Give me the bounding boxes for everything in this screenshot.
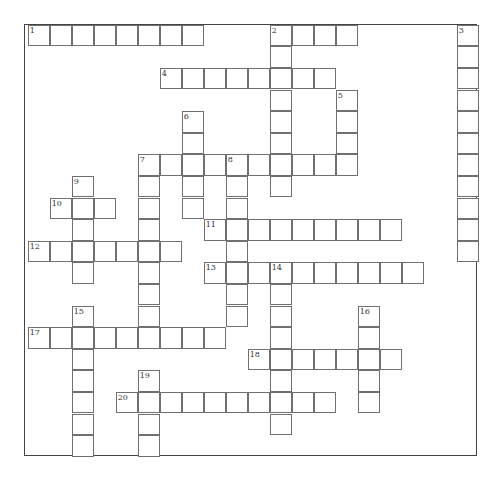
crossword-cell[interactable] [270,46,292,68]
crossword-cell[interactable] [226,392,248,414]
crossword-cell[interactable] [457,111,479,133]
crossword-cell[interactable] [204,327,226,349]
crossword-cell[interactable] [116,25,138,47]
crossword-cell[interactable] [270,349,292,371]
crossword-cell[interactable] [248,154,270,176]
crossword-cell[interactable] [270,392,292,414]
crossword-cell[interactable] [457,90,479,112]
crossword-cell[interactable] [72,198,94,220]
crossword-cell[interactable] [292,154,314,176]
crossword-cell[interactable] [314,219,336,241]
crossword-cell[interactable] [226,176,248,198]
crossword-cell[interactable] [94,327,116,349]
crossword-cell[interactable] [72,392,94,414]
crossword-cell[interactable] [160,241,182,263]
crossword-cell[interactable] [138,176,160,198]
crossword-cell[interactable]: 9 [72,176,94,198]
crossword-cell[interactable]: 17 [28,327,50,349]
crossword-cell[interactable]: 15 [72,306,94,328]
crossword-cell[interactable] [72,25,94,47]
crossword-cell[interactable] [94,241,116,263]
crossword-cell[interactable] [160,327,182,349]
crossword-cell[interactable] [270,414,292,436]
crossword-cell[interactable] [402,262,424,284]
crossword-cell[interactable] [50,327,72,349]
crossword-cell[interactable]: 7 [138,154,160,176]
crossword-cell[interactable] [204,392,226,414]
crossword-cell[interactable] [248,68,270,90]
crossword-cell[interactable] [380,262,402,284]
crossword-cell[interactable] [314,262,336,284]
crossword-cell[interactable] [72,262,94,284]
crossword-cell[interactable] [248,262,270,284]
crossword-cell[interactable] [72,219,94,241]
crossword-cell[interactable] [116,327,138,349]
crossword-cell[interactable] [226,219,248,241]
crossword-cell[interactable] [94,198,116,220]
crossword-cell[interactable] [204,154,226,176]
crossword-cell[interactable] [380,219,402,241]
crossword-cell[interactable]: 4 [160,68,182,90]
crossword-cell[interactable] [182,25,204,47]
crossword-cell[interactable] [270,306,292,328]
crossword-cell[interactable] [457,68,479,90]
crossword-cell[interactable] [94,25,116,47]
crossword-cell[interactable] [226,262,248,284]
crossword-cell[interactable] [457,154,479,176]
crossword-cell[interactable] [270,90,292,112]
crossword-cell[interactable] [336,133,358,155]
crossword-cell[interactable] [292,219,314,241]
crossword-cell[interactable] [226,68,248,90]
crossword-cell[interactable]: 1 [28,25,50,47]
crossword-cell[interactable] [160,154,182,176]
crossword-cell[interactable] [270,219,292,241]
crossword-cell[interactable] [226,198,248,220]
crossword-cell[interactable] [358,327,380,349]
crossword-cell[interactable] [270,111,292,133]
crossword-cell[interactable] [138,219,160,241]
crossword-cell[interactable] [138,241,160,263]
crossword-cell[interactable] [72,414,94,436]
crossword-cell[interactable] [457,219,479,241]
crossword-cell[interactable] [270,154,292,176]
crossword-cell[interactable] [72,327,94,349]
crossword-cell[interactable] [314,349,336,371]
crossword-cell[interactable] [336,111,358,133]
crossword-cell[interactable] [457,241,479,263]
crossword-cell[interactable] [314,68,336,90]
crossword-cell[interactable]: 13 [204,262,226,284]
crossword-cell[interactable] [182,392,204,414]
crossword-cell[interactable] [50,241,72,263]
crossword-cell[interactable] [138,262,160,284]
crossword-cell[interactable] [270,327,292,349]
crossword-cell[interactable] [380,349,402,371]
crossword-cell[interactable] [358,219,380,241]
crossword-cell[interactable] [226,306,248,328]
crossword-cell[interactable] [138,306,160,328]
crossword-cell[interactable] [182,133,204,155]
crossword-cell[interactable] [336,154,358,176]
crossword-cell[interactable] [358,262,380,284]
crossword-cell[interactable] [72,241,94,263]
crossword-cell[interactable]: 11 [204,219,226,241]
crossword-cell[interactable] [270,133,292,155]
crossword-cell[interactable] [270,284,292,306]
crossword-cell[interactable] [292,262,314,284]
crossword-cell[interactable] [226,284,248,306]
crossword-cell[interactable] [358,349,380,371]
crossword-cell[interactable]: 16 [358,306,380,328]
crossword-cell[interactable] [336,219,358,241]
crossword-cell[interactable] [248,392,270,414]
crossword-cell[interactable] [182,68,204,90]
crossword-cell[interactable] [116,241,138,263]
crossword-cell[interactable]: 12 [28,241,50,263]
crossword-cell[interactable] [358,392,380,414]
crossword-cell[interactable] [72,349,94,371]
crossword-cell[interactable] [204,68,226,90]
crossword-cell[interactable] [457,198,479,220]
crossword-cell[interactable]: 6 [182,111,204,133]
crossword-cell[interactable] [358,370,380,392]
crossword-cell[interactable] [336,349,358,371]
crossword-cell[interactable] [160,25,182,47]
crossword-cell[interactable] [292,68,314,90]
